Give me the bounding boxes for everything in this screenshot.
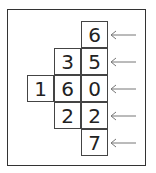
digit-cell-r3-c2: 2 (81, 102, 108, 129)
digit-cell-r4-c2: 7 (81, 129, 108, 156)
left-arrow-icon-row-4 (110, 138, 137, 148)
left-arrow-icon-row-0 (110, 30, 137, 40)
digit-cell-r2-c2: 0 (81, 75, 108, 102)
digit-cell-r1-c2: 5 (81, 48, 108, 75)
digit-cell-r2-c1: 6 (54, 75, 81, 102)
digit-cell-r2-c0: 1 (27, 75, 54, 102)
digit-cell-r1-c1: 3 (54, 48, 81, 75)
left-arrow-icon-row-1 (110, 57, 137, 67)
left-arrow-icon-row-2 (110, 84, 137, 94)
digit-cell-r0-c2: 6 (81, 21, 108, 48)
left-arrow-icon-row-3 (110, 111, 137, 121)
digit-cell-r3-c1: 2 (54, 102, 81, 129)
